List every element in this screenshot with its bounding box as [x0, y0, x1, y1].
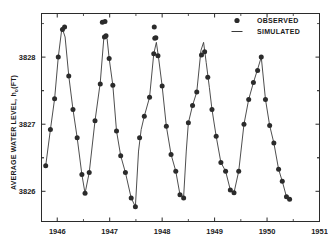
- observed-data-point: [164, 124, 169, 129]
- observed-data-point: [52, 96, 57, 101]
- observed-data-point: [205, 75, 210, 80]
- y-tick-label: 3828: [19, 53, 36, 62]
- observed-data-point: [202, 49, 207, 54]
- observed-data-point: [241, 122, 246, 127]
- observed-data-point: [276, 167, 281, 172]
- observed-data-point: [194, 90, 199, 95]
- observed-data-point: [114, 128, 119, 133]
- x-tick-label: 1950: [259, 227, 276, 236]
- observed-outlier-point: [102, 19, 107, 24]
- observed-data-point: [43, 163, 48, 168]
- observed-data-point: [181, 196, 186, 201]
- observed-data-point: [129, 196, 134, 201]
- y-axis-label: AVERAGE WATER LEVEL, ho(FT): [10, 75, 19, 190]
- observed-data-point: [123, 170, 128, 175]
- observed-data-point: [118, 153, 123, 158]
- observed-data-point: [218, 160, 223, 165]
- x-tick-label: 1948: [154, 227, 171, 236]
- y-axis-label-units: (FT): [10, 75, 18, 89]
- y-tick-label: 3827: [19, 120, 36, 129]
- observed-data-point: [267, 123, 272, 128]
- observed-data-point: [190, 103, 195, 108]
- observed-data-point: [263, 97, 268, 102]
- observed-data-point: [70, 107, 75, 112]
- observed-data-point: [271, 141, 276, 146]
- observed-data-point: [155, 53, 160, 58]
- observed-data-point: [287, 197, 292, 202]
- observed-data-point: [79, 172, 84, 177]
- observed-data-point: [173, 169, 178, 174]
- observed-data-point: [236, 169, 241, 174]
- svg-text:AVERAGE WATER LEVEL, ho(FT): AVERAGE WATER LEVEL, ho(FT): [10, 75, 19, 190]
- observed-data-point: [93, 118, 98, 123]
- observed-data-point: [280, 179, 285, 184]
- observed-data-point: [169, 152, 174, 157]
- observed-data-point: [251, 80, 256, 85]
- observed-data-point: [66, 73, 71, 78]
- observed-data-point: [107, 56, 112, 61]
- y-tick-label: 3826: [19, 187, 36, 196]
- legend-simulated-label: SIMULATED: [257, 28, 300, 35]
- observed-data-point: [98, 81, 103, 86]
- observed-data-point: [137, 135, 142, 140]
- y-axis-tick-labels: 382638273828: [19, 53, 36, 196]
- observed-data-point: [186, 120, 191, 125]
- observed-data-point: [133, 204, 138, 209]
- observed-data-point: [87, 170, 92, 175]
- observed-data-point: [209, 107, 214, 112]
- figure-container: 194619471948194919501951 382638273828 AV…: [0, 0, 328, 240]
- y-axis-label-main: AVERAGE WATER LEVEL, h: [10, 92, 18, 190]
- observed-data-point: [48, 127, 53, 132]
- observed-data-point: [104, 33, 109, 38]
- legend-observed-marker-icon: [234, 18, 239, 23]
- observed-data-point: [223, 169, 228, 174]
- observed-data-point: [214, 134, 219, 139]
- observed-data-point: [232, 190, 237, 195]
- water-level-chart: 194619471948194919501951 382638273828 AV…: [0, 0, 328, 240]
- observed-data-point: [246, 97, 251, 102]
- observed-data-point: [75, 135, 80, 140]
- observed-outlier-point: [152, 36, 157, 41]
- observed-data-point: [56, 55, 61, 60]
- observed-data-point: [259, 55, 264, 60]
- x-tick-label: 1949: [206, 227, 223, 236]
- observed-data-point: [83, 191, 88, 196]
- observed-outlier-point: [152, 24, 157, 29]
- x-axis-tick-labels: 194619471948194919501951: [49, 227, 328, 236]
- legend-observed-label: OBSERVED: [257, 17, 299, 24]
- x-tick-label: 1947: [101, 227, 118, 236]
- plot-frame: [42, 14, 320, 222]
- observed-data-point: [255, 68, 260, 73]
- x-tick-label: 1951: [311, 227, 328, 236]
- observed-data-point: [110, 83, 115, 88]
- observed-data-point: [62, 24, 67, 29]
- x-tick-label: 1946: [49, 227, 66, 236]
- observed-data-point: [142, 114, 147, 119]
- observed-data-point: [147, 95, 152, 100]
- observed-data-point: [177, 192, 182, 197]
- observed-data-point: [160, 83, 165, 88]
